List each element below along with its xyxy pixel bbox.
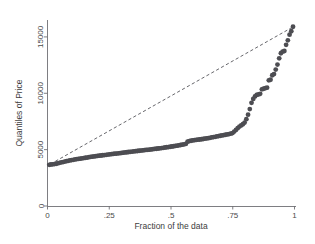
- data-point: [273, 67, 278, 72]
- y-tick-label: 10000: [37, 82, 46, 105]
- data-point: [246, 112, 251, 117]
- y-axis-title: Quantiles of Price: [14, 79, 24, 146]
- data-point: [291, 24, 296, 29]
- data-point: [258, 91, 263, 96]
- y-tick-label: 0: [37, 203, 46, 208]
- data-point: [282, 49, 287, 54]
- x-tick-label: 1: [292, 211, 297, 220]
- y-tick-label: 5000: [37, 140, 46, 158]
- data-point: [277, 56, 282, 61]
- data-point: [244, 117, 249, 122]
- data-point: [285, 38, 290, 43]
- data-point: [272, 72, 277, 77]
- x-axis-title: Fraction of the data: [134, 221, 208, 231]
- x-tick-label: 0: [45, 211, 50, 220]
- quantile-plot: 050001000015000 0.25.5.751 Fraction of t…: [0, 0, 315, 244]
- chart-page: 050001000015000 0.25.5.751 Fraction of t…: [0, 0, 315, 244]
- x-tick-label: .5: [168, 211, 175, 220]
- y-tick-label: 15000: [37, 25, 46, 48]
- data-point: [275, 62, 280, 67]
- x-tick-label: .75: [227, 211, 239, 220]
- data-point: [289, 29, 294, 34]
- data-point: [265, 85, 270, 90]
- data-point: [268, 77, 273, 82]
- x-tick-label: .25: [104, 211, 116, 220]
- data-point: [247, 107, 252, 112]
- data-point: [284, 42, 289, 47]
